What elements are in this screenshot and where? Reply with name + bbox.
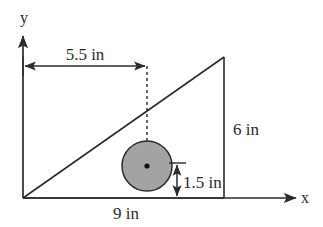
- circular-hole: [122, 141, 172, 191]
- hole-center-dot: [144, 163, 149, 168]
- base-dimension-label: 9 in: [113, 204, 139, 223]
- hole-x-offset-label: 5.5 in: [66, 45, 105, 64]
- hole-y-offset-label: 1.5 in: [183, 173, 222, 192]
- engineering-diagram: x y 5.5 in 1.5 in 9 in 6 in: [0, 0, 323, 227]
- diagram-background: [0, 0, 323, 227]
- y-axis-label: y: [20, 9, 28, 27]
- x-axis-label: x: [301, 189, 309, 206]
- height-dimension-label: 6 in: [233, 120, 259, 139]
